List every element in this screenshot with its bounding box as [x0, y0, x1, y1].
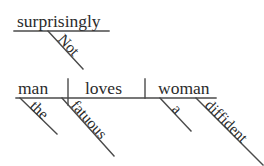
sentence-diagram: surprisingly Not man loves woman the fat… [0, 0, 264, 166]
negator-label-not: Not [55, 30, 84, 59]
diagram-canvas: surprisingly Not man loves woman the fat… [0, 0, 264, 166]
subject-label-man: man [18, 78, 48, 98]
subject-adjective-label-fatuous: fatuous [68, 97, 111, 142]
verb-label-loves: loves [85, 78, 122, 98]
adverb-label-surprisingly: surprisingly [17, 11, 101, 31]
object-label-woman: woman [158, 78, 210, 98]
object-article-label-a: a [169, 100, 186, 117]
object-adjective-label-diffident: diffident [202, 96, 252, 146]
subject-article-label-the: the [27, 97, 53, 122]
